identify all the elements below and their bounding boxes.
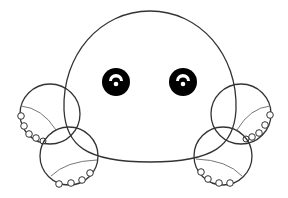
left-eye <box>102 68 130 96</box>
eye-highlight-dot <box>181 82 186 87</box>
eye-highlight-dot <box>114 82 119 87</box>
octopus-drawing <box>0 0 288 198</box>
right-eye <box>169 68 197 96</box>
octopus-illustration: Cute octopus outline with two eyes and f… <box>0 0 288 198</box>
